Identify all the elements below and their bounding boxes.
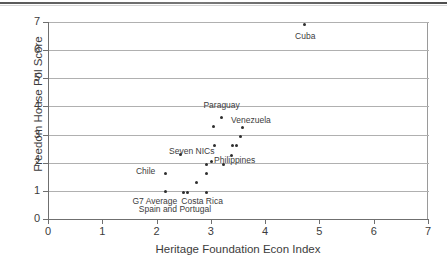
x-tick-mark-4 (265, 219, 266, 224)
data-point (195, 181, 198, 184)
point-label-venezuela: Venezuela (231, 116, 271, 125)
x-tick-mark-0 (48, 219, 49, 224)
data-point (220, 116, 223, 119)
gridline-y-7 (49, 22, 429, 23)
y-axis-title: Freedom House Pol Score (32, 4, 44, 204)
gridline-y-5 (49, 78, 429, 79)
gridline-y-6 (49, 50, 429, 51)
data-point (164, 172, 167, 175)
scan-edge-top-line (0, 2, 447, 4)
x-tick-mark-2 (157, 219, 158, 224)
data-point (239, 135, 242, 138)
x-tick-label-7: 7 (416, 226, 440, 237)
x-axis-title: Heritage Foundation Econ Index (48, 243, 428, 255)
point-label-spain-and-portugal: Spain and Portugal (139, 205, 211, 214)
data-point (164, 190, 167, 193)
point-label-seven-nics: Seven NICs (169, 147, 214, 156)
data-point (235, 144, 238, 147)
x-tick-mark-1 (102, 219, 103, 224)
x-tick-mark-5 (319, 219, 320, 224)
y-axis-line (48, 22, 49, 220)
x-tick-label-1: 1 (90, 226, 114, 237)
data-point (205, 163, 208, 166)
y-tick-label-wrap-0: 0 (0, 213, 40, 224)
data-point (210, 160, 213, 163)
data-point (303, 23, 306, 26)
scan-edge-secondary-line (0, 5, 447, 6)
x-tick-label-6: 6 (362, 226, 386, 237)
point-label-philippines: Philippines (214, 156, 255, 165)
x-tick-label-3: 3 (199, 226, 223, 237)
gridline-y-1 (49, 191, 429, 192)
point-label-chile: Chile (136, 167, 155, 176)
x-tick-label-4: 4 (253, 226, 277, 237)
plot-area: CubaParaguayVenezuelaSeven NICsPhilippin… (48, 22, 428, 219)
data-point (212, 125, 215, 128)
x-tick-label-0: 0 (36, 226, 60, 237)
data-point (182, 191, 185, 194)
scatter-chart-figure: CubaParaguayVenezuelaSeven NICsPhilippin… (0, 0, 447, 264)
y-tick-label-0: 0 (8, 213, 40, 224)
data-point (205, 172, 208, 175)
x-tick-mark-3 (211, 219, 212, 224)
x-tick-mark-6 (374, 219, 375, 224)
x-tick-mark-7 (428, 219, 429, 224)
data-point (205, 191, 208, 194)
data-point (241, 126, 244, 129)
x-tick-label-2: 2 (145, 226, 169, 237)
x-tick-label-5: 5 (307, 226, 331, 237)
point-label-paraguay: Paraguay (203, 101, 239, 110)
point-label-cuba: Cuba (295, 32, 315, 41)
x-axis-line (48, 219, 429, 220)
data-point (231, 144, 234, 147)
